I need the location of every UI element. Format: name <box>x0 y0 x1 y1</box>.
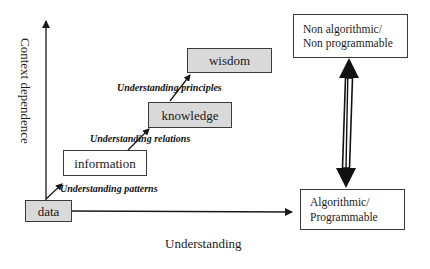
box-data: data <box>25 200 72 222</box>
y-axis-label: Context dependence <box>17 38 33 144</box>
label-understanding-relations: Understanding relations <box>90 133 190 144</box>
double-headed-arrow <box>336 58 359 188</box>
x-axis-label: Understanding <box>165 236 242 252</box>
algorithmic-line1: Algorithmic/ <box>310 195 369 209</box>
label-understanding-patterns: Understanding patterns <box>60 183 158 194</box>
algorithmic-line2: Programmable <box>310 210 378 224</box>
dikw-diagram: Context dependence Understanding data in… <box>0 0 430 269</box>
box-information: information <box>63 150 147 176</box>
box-information-label: information <box>74 157 135 170</box>
box-non-algorithmic: Non algorithmic/ Non programmable <box>293 14 408 58</box>
box-data-label: data <box>38 205 60 218</box>
box-wisdom: wisdom <box>187 48 272 73</box>
box-knowledge: knowledge <box>148 102 232 128</box>
non-algorithmic-line2: Non programmable <box>303 36 393 50</box>
box-algorithmic: Algorithmic/ Programmable <box>300 189 405 230</box>
box-knowledge-label: knowledge <box>161 109 218 122</box>
label-understanding-principles: Understanding principles <box>117 82 222 93</box>
x-axis-arrow <box>72 211 292 212</box>
box-wisdom-label: wisdom <box>209 54 250 67</box>
non-algorithmic-line1: Non algorithmic/ <box>303 22 382 36</box>
